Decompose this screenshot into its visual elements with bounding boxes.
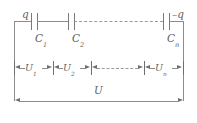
- capacitor-c2-plate-left: [68, 13, 69, 30]
- series-continuation-dashed-line: [74, 21, 163, 22]
- capacitor-series-circuit-figure: q –q C1 C2 Cn U1 U2 Un U: [0, 0, 197, 123]
- voltage-label-un: Un: [155, 63, 167, 73]
- voltage-label-u1: U1: [25, 63, 37, 73]
- capacitor-c1-plate-left: [31, 13, 32, 30]
- middle-dimension-dashed-line: [97, 68, 138, 69]
- capacitor-label-cn: Cn: [167, 33, 179, 44]
- wire-left-to-c1: [14, 21, 31, 22]
- charge-label-negative: –q: [172, 9, 184, 20]
- dimension-tick-right: [183, 61, 184, 75]
- total-voltage-dimension-line: [19, 101, 178, 102]
- u1-arrow-right-head: [47, 65, 52, 69]
- charge-label-positive: q: [22, 9, 29, 20]
- un-arrow-right-head: [177, 65, 182, 69]
- total-voltage-arrow-right-head: [178, 98, 183, 102]
- middle-dimension-arrow-right-head: [138, 65, 143, 69]
- total-voltage-label: U: [94, 85, 103, 96]
- wire-cn-to-right: [169, 21, 183, 22]
- capacitor-cn-plate-left: [163, 13, 164, 30]
- capacitor-label-c1: C1: [35, 33, 47, 44]
- wire-c1-to-c2: [37, 21, 68, 22]
- u2-arrow-right-head: [85, 65, 90, 69]
- voltage-label-u2: U2: [63, 63, 75, 73]
- capacitor-label-c2: C2: [72, 33, 84, 44]
